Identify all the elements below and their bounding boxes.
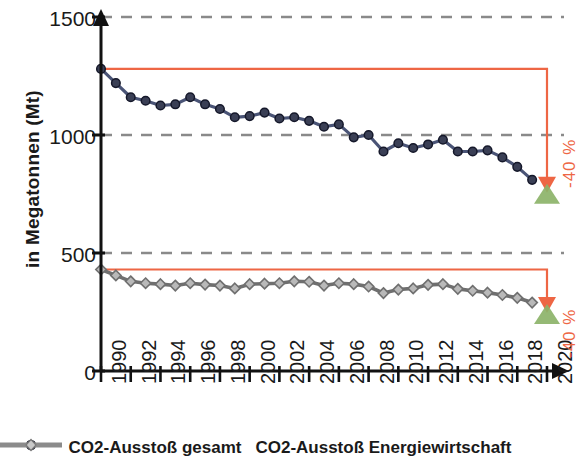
x-tick-1994: 1994: [168, 340, 188, 385]
target-label-total: -40 %: [560, 139, 580, 188]
x-tick-2004: 2004: [317, 340, 337, 385]
chart-legend: CO2-Ausstoß gesamt CO2-Ausstoß Energiewi…: [0, 438, 580, 458]
x-tick-1998: 1998: [228, 340, 248, 385]
x-tick-2006: 2006: [347, 340, 367, 385]
x-tick-2000: 2000: [258, 340, 278, 385]
x-tick-2018: 2018: [525, 340, 545, 385]
legend-label-energy: CO2-Ausstoß Energiewirtschaft: [255, 438, 511, 458]
legend-marker-diamond-icon: [0, 438, 62, 452]
axes: [92, 9, 569, 382]
x-tick-1990: 1990: [109, 340, 129, 385]
plot-area: [0, 0, 580, 464]
legend-item-energy: CO2-Ausstoß Energiewirtschaft: [255, 438, 511, 458]
x-tick-1992: 1992: [139, 340, 159, 385]
chart-figure: in Megatonnen (Mt) 1500 1000 500 0 19901…: [0, 0, 580, 464]
x-tick-2014: 2014: [466, 340, 486, 385]
x-tick-2008: 2008: [377, 340, 397, 385]
x-tick-2010: 2010: [406, 340, 426, 385]
data-series: [96, 65, 538, 308]
target-label-energy: -40 %: [560, 309, 580, 358]
legend-item-total: CO2-Ausstoß gesamt: [69, 438, 242, 458]
legend-label-total: CO2-Ausstoß gesamt: [69, 438, 242, 458]
x-tick-2002: 2002: [287, 340, 307, 385]
x-tick-2012: 2012: [436, 340, 456, 385]
gridlines: [101, 17, 564, 253]
x-tick-2016: 2016: [496, 340, 516, 385]
x-tick-1996: 1996: [198, 340, 218, 385]
